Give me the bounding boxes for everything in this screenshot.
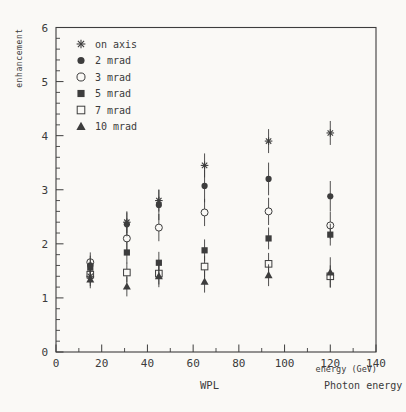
legend-2-mrad-marker-icon — [77, 57, 84, 64]
5-mrad-marker-icon — [265, 235, 271, 241]
on-axis-marker-icon — [265, 137, 273, 145]
y-tick-label: 0 — [41, 346, 48, 359]
5-mrad-marker-icon — [201, 247, 207, 253]
10-mrad-marker-icon — [265, 271, 273, 278]
point-2-mrad — [201, 170, 207, 203]
legend-item-on-axis: on axis — [77, 39, 138, 50]
3-mrad-marker-icon — [155, 224, 162, 231]
x-tick-label: 40 — [141, 357, 154, 370]
5-mrad-marker-icon — [124, 249, 130, 255]
2-mrad-marker-icon — [87, 262, 93, 268]
open-circle — [155, 224, 162, 231]
2-mrad-marker-icon — [265, 176, 271, 182]
legend-label: 5 mrad — [95, 88, 131, 99]
legend-item-2-mrad: 2 mrad — [77, 55, 131, 66]
legend-7-mrad-marker-icon — [77, 106, 85, 114]
open-square — [201, 263, 208, 270]
legend-5-mrad-marker-icon — [77, 90, 84, 97]
y-tick-label: 2 — [41, 238, 48, 251]
2-mrad-marker-icon — [156, 202, 162, 208]
series-2-mrad — [87, 163, 333, 276]
scatter-plot-canvas: 0204060801001201400123456enhancementener… — [0, 0, 406, 412]
10-mrad-marker-icon — [326, 268, 334, 275]
y-tick-label: 5 — [41, 76, 48, 89]
5-mrad-marker-icon — [156, 260, 162, 266]
legend-label: on axis — [95, 39, 137, 50]
filled-square — [327, 232, 333, 238]
legend-item-5-mrad: 5 mrad — [77, 88, 131, 99]
filled-circle — [327, 193, 333, 199]
3-mrad-marker-icon — [201, 209, 208, 216]
point-5-mrad — [124, 242, 130, 264]
10-mrad-marker-icon — [201, 278, 209, 285]
open-circle — [201, 209, 208, 216]
filled-triangle — [201, 278, 209, 285]
x-axis-title: energy (GeV) — [316, 364, 377, 374]
filled-circle — [87, 262, 93, 268]
point-3-mrad — [265, 198, 272, 225]
legend-label: 10 mrad — [95, 121, 137, 132]
open-circle — [77, 73, 85, 81]
series-3-mrad — [87, 198, 334, 272]
filled-triangle — [123, 282, 131, 289]
legend-10-mrad-marker-icon — [76, 122, 85, 130]
point-on-axis — [265, 129, 273, 153]
legend-label: 7 mrad — [95, 105, 131, 116]
point-on-axis — [326, 121, 334, 145]
y-tick-label: 3 — [41, 184, 48, 197]
point-10-mrad — [201, 271, 209, 293]
filled-circle — [201, 183, 207, 189]
legend-item-10-mrad: 10 mrad — [76, 121, 137, 132]
legend-label: 2 mrad — [95, 55, 131, 66]
point-3-mrad — [201, 199, 208, 226]
2-mrad-marker-icon — [124, 221, 130, 227]
filled-square — [156, 260, 162, 266]
series-5-mrad — [87, 224, 333, 277]
y-tick-label: 6 — [41, 22, 48, 35]
filled-circle — [77, 57, 84, 64]
legend: on axis2 mrad3 mrad5 mrad7 mrad10 mrad — [76, 39, 137, 133]
point-5-mrad — [265, 228, 271, 250]
filled-triangle — [76, 122, 85, 130]
x-tick-label: 0 — [53, 357, 60, 370]
x-tick-label: 100 — [275, 357, 295, 370]
filled-circle — [265, 176, 271, 182]
open-circle — [265, 208, 272, 215]
filled-circle — [124, 221, 130, 227]
7-mrad-marker-icon — [201, 263, 208, 270]
filled-circle — [156, 202, 162, 208]
point-2-mrad — [327, 181, 333, 211]
axis-ticks: 0204060801001201400123456 — [41, 22, 386, 370]
x-tick-label: 60 — [187, 357, 200, 370]
x-tick-label: 80 — [232, 357, 245, 370]
7-mrad-marker-icon — [124, 269, 131, 276]
series-10-mrad — [86, 257, 334, 296]
point-2-mrad — [124, 212, 130, 236]
filled-square — [201, 247, 207, 253]
on-axis-marker-icon — [326, 129, 334, 137]
point-2-mrad — [156, 190, 162, 220]
footer-left-label: WPL — [200, 379, 219, 391]
point-2-mrad — [265, 163, 271, 196]
open-square — [124, 269, 131, 276]
y-axis-title: enhancement — [15, 28, 24, 88]
open-square — [77, 106, 85, 114]
legend-on-axis-marker-icon — [77, 40, 86, 49]
y-tick-label: 4 — [41, 130, 48, 143]
filled-square — [124, 249, 130, 255]
3-mrad-marker-icon — [265, 208, 272, 215]
legend-3-mrad-marker-icon — [77, 73, 85, 81]
10-mrad-marker-icon — [123, 282, 131, 289]
scanned-figure-page: 0204060801001201400123456enhancementener… — [0, 0, 406, 412]
5-mrad-marker-icon — [327, 232, 333, 238]
point-10-mrad — [123, 277, 131, 297]
legend-item-7-mrad: 7 mrad — [77, 105, 131, 116]
on-axis-marker-icon — [201, 162, 209, 170]
filled-triangle — [326, 268, 334, 275]
filled-square — [265, 235, 271, 241]
series-on-axis — [86, 121, 334, 286]
series-7-mrad — [87, 253, 334, 287]
filled-triangle — [265, 271, 273, 278]
legend-item-3-mrad: 3 mrad — [77, 72, 131, 83]
legend-label: 3 mrad — [95, 72, 131, 83]
